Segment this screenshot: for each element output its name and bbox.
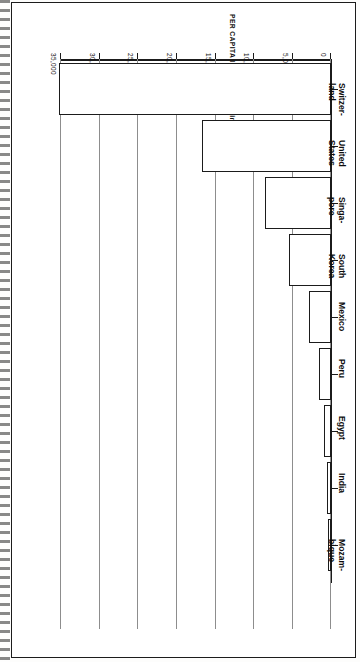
- cat-label-mozambique: Mozam- bique: [327, 539, 346, 571]
- plot-area: 0 5,000 10,000 15,000 20,000 25,000 30,0…: [60, 59, 332, 583]
- tick-label-35000: 35,000: [50, 53, 57, 75]
- cat-label-mexico: Mexico: [336, 302, 346, 331]
- bar-switzerland: [59, 63, 331, 115]
- bar-south-korea: [289, 234, 331, 286]
- rotated-figure: 0 5,000 10,000 15,000 20,000 25,000 30,0…: [12, 3, 357, 659]
- bar-peru: [319, 348, 331, 400]
- cat-label-mozambique-line1: Mozam-: [336, 539, 346, 571]
- tick-label-0: 0: [320, 53, 327, 57]
- cat-label-united-states: United States: [327, 140, 346, 167]
- cat-label-switzerland-line2: land: [327, 83, 337, 116]
- cat-label-india-line1: India: [336, 473, 346, 493]
- cat-label-south-korea: South Korea: [327, 254, 346, 278]
- cat-label-egypt-line1: Egypt: [336, 416, 346, 440]
- cat-label-india: India: [336, 473, 346, 493]
- cat-label-switzerland-line1: Switzer-: [336, 83, 346, 116]
- figure-frame: 0 5,000 10,000 15,000 20,000 25,000 30,0…: [11, 2, 356, 658]
- tick-5000: [292, 53, 293, 59]
- cat-label-south-korea-line2: Korea: [327, 254, 337, 278]
- scanned-page: 0 5,000 10,000 15,000 20,000 25,000 30,0…: [0, 0, 360, 662]
- bar-singapore: [265, 177, 331, 229]
- tick-0: [330, 53, 331, 59]
- tick-35000: [60, 53, 61, 59]
- cat-label-egypt: Egypt: [336, 416, 346, 440]
- cat-label-singapore: Singa- pore: [327, 197, 346, 223]
- tick-15000: [215, 53, 216, 59]
- gridline-20000: [176, 59, 177, 629]
- cat-label-united-states-line1: United: [336, 140, 346, 167]
- cat-label-peru: Peru: [336, 359, 346, 378]
- cat-label-mexico-line1: Mexico: [336, 302, 346, 331]
- tick-20000: [176, 53, 177, 59]
- bar-egypt: [324, 405, 331, 457]
- gridline-35000: [60, 59, 61, 629]
- bar-mexico: [309, 291, 331, 343]
- cat-label-peru-line1: Peru: [336, 359, 346, 378]
- tick-10000: [253, 53, 254, 59]
- bar-india: [327, 462, 331, 514]
- bar-united-states: [202, 120, 331, 172]
- cat-label-united-states-line2: States: [327, 140, 337, 167]
- cat-label-singapore-line1: Singa-: [336, 197, 346, 223]
- tick-30000: [99, 53, 100, 59]
- cat-label-south-korea-line1: South: [336, 254, 346, 278]
- cat-label-singapore-line2: pore: [327, 197, 337, 223]
- cat-label-switzerland: Switzer- land: [327, 83, 346, 116]
- gridline-30000: [99, 59, 100, 629]
- tick-25000: [137, 53, 138, 59]
- cat-label-mozambique-line2: bique: [327, 539, 337, 571]
- scan-edge-artifact: [0, 0, 10, 662]
- gridline-25000: [137, 59, 138, 629]
